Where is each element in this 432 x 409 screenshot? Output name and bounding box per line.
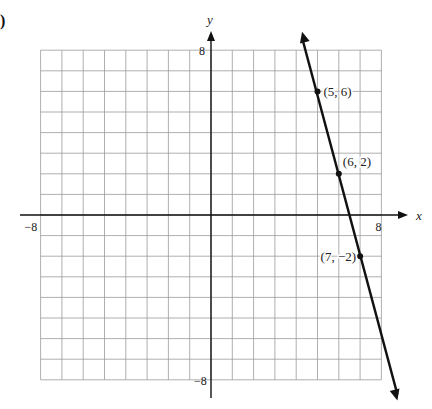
y-axis-arrow-icon [207,31,215,41]
data-point [357,253,363,259]
labels: xy−888−8(5, 6)(6, 2)(7, −2) [25,12,422,388]
line-arrow-up-icon [300,32,310,44]
x-tick-label: 8 [375,220,381,234]
coordinate-plane: xy−888−8(5, 6)(6, 2)(7, −2) [0,0,432,409]
line-arrow-down-icon [390,388,400,400]
x-axis-label: x [415,208,422,223]
y-tick-label: −8 [194,374,207,388]
point-label: (6, 2) [343,154,371,169]
x-axis-arrow-icon [398,211,408,219]
y-tick-label: 8 [199,44,205,58]
x-tick-label: −8 [25,220,38,234]
point-label: (5, 6) [324,84,352,99]
y-axis-label: y [205,12,213,27]
data-point [315,88,321,94]
data-point [336,171,342,177]
point-label: (7, −2) [321,249,357,264]
